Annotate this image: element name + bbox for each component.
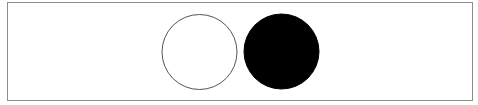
filled-circle	[244, 14, 319, 89]
open-circle	[162, 15, 237, 90]
diagram-canvas	[0, 0, 478, 105]
